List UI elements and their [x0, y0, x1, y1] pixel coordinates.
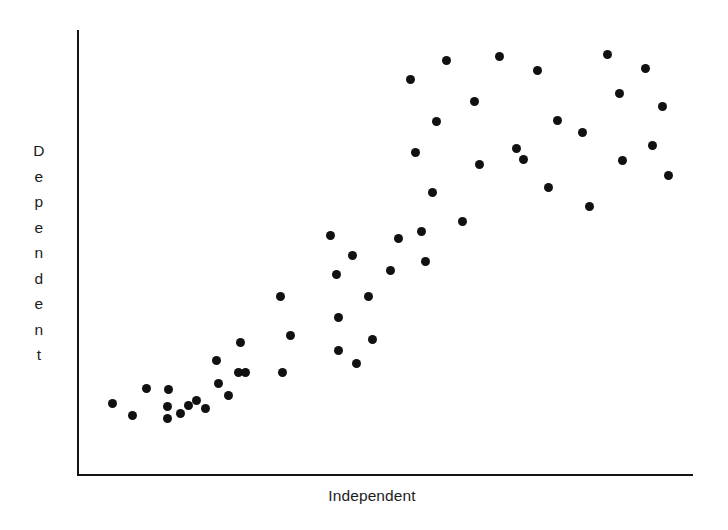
scatter-point — [368, 335, 377, 344]
scatter-point — [658, 102, 667, 111]
scatter-point — [519, 155, 528, 164]
scatter-point — [442, 56, 451, 65]
scatter-point — [192, 396, 201, 405]
y-axis-label-letter: n — [35, 317, 44, 343]
scatter-point — [664, 171, 673, 180]
x-axis-label: Independent — [0, 487, 728, 505]
scatter-point — [432, 117, 441, 126]
x-axis-line — [77, 474, 693, 476]
scatter-point — [470, 97, 479, 106]
scatter-point — [142, 384, 151, 393]
y-axis-label-letter: D — [33, 138, 44, 164]
scatter-point — [533, 66, 542, 75]
scatter-point — [394, 234, 403, 243]
scatter-point — [163, 402, 172, 411]
scatter-point — [648, 141, 657, 150]
scatter-point — [184, 401, 193, 410]
y-axis-line — [77, 30, 79, 476]
scatter-point — [163, 414, 172, 423]
scatter-point — [364, 292, 373, 301]
y-axis-label-letter: e — [35, 291, 44, 317]
y-axis-label-letter: d — [35, 266, 44, 292]
y-axis-label-letter: p — [35, 189, 44, 215]
scatter-point — [421, 257, 430, 266]
scatter-point — [544, 183, 553, 192]
plot-area — [0, 0, 728, 530]
scatter-point — [603, 50, 612, 59]
scatter-point — [276, 292, 285, 301]
scatter-point — [236, 338, 245, 347]
scatter-point — [475, 160, 484, 169]
scatter-point — [458, 217, 467, 226]
scatter-point — [164, 385, 173, 394]
scatter-point — [512, 144, 521, 153]
scatter-point — [578, 128, 587, 137]
scatter-point — [224, 391, 233, 400]
scatter-point — [348, 251, 357, 260]
y-axis-label-letter: e — [35, 215, 44, 241]
y-axis-label-letter: e — [35, 164, 44, 190]
x-axis-label-text: Independent — [328, 487, 415, 504]
scatter-point — [128, 411, 137, 420]
scatter-point — [495, 52, 504, 61]
scatter-point — [326, 231, 335, 240]
scatter-point — [108, 399, 117, 408]
scatter-point — [417, 227, 426, 236]
scatter-point — [428, 188, 437, 197]
scatter-point — [615, 89, 624, 98]
scatter-point — [585, 202, 594, 211]
scatter-point — [618, 156, 627, 165]
scatter-point — [334, 313, 343, 322]
scatter-point — [241, 368, 250, 377]
scatter-point — [214, 379, 223, 388]
scatter-point — [334, 346, 343, 355]
scatter-point — [352, 359, 361, 368]
scatter-point — [553, 116, 562, 125]
scatter-point — [201, 404, 210, 413]
scatter-point — [278, 368, 287, 377]
scatter-point — [332, 270, 341, 279]
scatter-point — [176, 409, 185, 418]
scatter-point — [406, 75, 415, 84]
scatter-point — [386, 266, 395, 275]
scatter-point — [411, 148, 420, 157]
scatter-plot-figure: Dependent Independent — [0, 0, 728, 530]
scatter-point — [212, 356, 221, 365]
scatter-point — [641, 64, 650, 73]
scatter-point — [286, 331, 295, 340]
y-axis-label: Dependent — [22, 138, 56, 368]
y-axis-label-letter: t — [37, 342, 42, 368]
y-axis-label-letter: n — [35, 240, 44, 266]
